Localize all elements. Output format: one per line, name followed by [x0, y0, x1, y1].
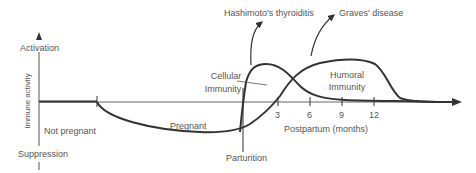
humoral-immunity-curve	[97, 59, 455, 132]
arrow-up-icon	[36, 32, 42, 40]
humoral-label-2: Immunity	[322, 83, 372, 92]
activation-label: Activation	[20, 44, 59, 53]
tick-9: 9	[339, 111, 344, 120]
immune-activity-diagram: Activation Suppression Immune activity N…	[0, 0, 476, 173]
cellular-label-2: Immunity	[198, 85, 248, 94]
y-axis-title: Immune activity	[24, 73, 32, 129]
tick-3: 3	[275, 111, 280, 120]
humoral-label-1: Humoral	[322, 71, 372, 80]
tick-6: 6	[307, 111, 312, 120]
graves-label: Graves' disease	[339, 9, 403, 18]
tick-12: 12	[369, 111, 379, 120]
cellular-label-1: Cellular	[204, 72, 248, 81]
x-axis-title: Postpartum (months)	[284, 125, 368, 134]
pregnant-label: Pregnant	[170, 122, 207, 131]
suppression-label: Suppression	[18, 150, 68, 159]
parturition-label: Parturition	[226, 154, 267, 163]
graves-arrow-icon	[311, 15, 334, 56]
hashimoto-label: Hashimoto's thyroiditis	[224, 9, 314, 18]
not-pregnant-label: Not pregnant	[44, 127, 96, 136]
hashimoto-arrow-icon	[251, 22, 262, 65]
